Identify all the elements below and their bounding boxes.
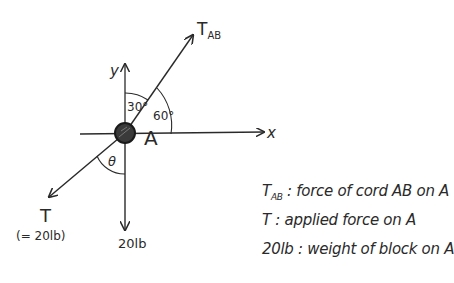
angle-30: 30° <box>125 93 148 114</box>
legend-separator: : <box>298 240 303 258</box>
angle-60-label: 60° <box>153 109 174 123</box>
y-axis-label: y <box>109 62 120 80</box>
point-a-label: A <box>144 126 158 150</box>
angle-theta: θ <box>97 154 125 174</box>
legend-row-tab: TAB : force of cord AB on A <box>262 182 449 202</box>
legend-description: force of cord AB on A <box>296 182 449 200</box>
force-t-note: (= 20lb) <box>16 229 65 243</box>
force-weight: 20lb <box>118 133 146 251</box>
force-t: T (= 20lb) <box>16 133 125 243</box>
angle-theta-label: θ <box>108 154 116 169</box>
angle-30-label: 30° <box>127 100 148 114</box>
legend-separator: : <box>275 211 280 229</box>
legend-symbol: TAB <box>262 182 283 202</box>
force-tab-label: TAB <box>196 19 221 41</box>
legend-description: applied force on A <box>285 211 416 229</box>
force-t-label: T <box>39 205 52 226</box>
legend-symbol: T <box>262 211 271 229</box>
legend-separator: : <box>287 182 292 200</box>
x-axis: x <box>80 124 276 142</box>
legend-symbol: 20lb <box>262 240 294 258</box>
legend-row-t: T : applied force on A <box>262 211 416 229</box>
x-axis-label: x <box>266 124 276 142</box>
legend-row-weight: 20lb : weight of block on A <box>262 240 454 258</box>
force-weight-label: 20lb <box>118 236 146 251</box>
particle-a: A <box>115 123 158 150</box>
legend-description: weight of block on A <box>307 240 454 258</box>
